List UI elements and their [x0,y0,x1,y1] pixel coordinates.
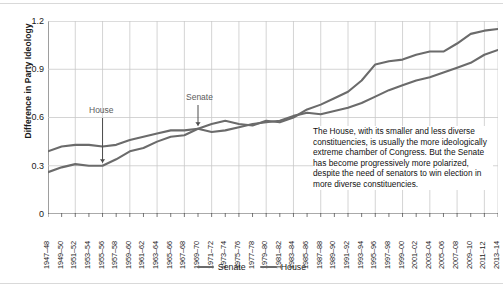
chart-note-text: The House, with its smaller and less div… [313,126,493,190]
senate-callout-label: Senate [186,92,213,102]
y-axis-tick-labels: 1.2 0.9 0.6 0.3 0 [18,0,44,288]
y-tick-label: 0 [18,209,44,219]
legend-item-house: House [260,262,306,272]
legend-label: House [281,262,306,272]
y-tick-label: 0.3 [18,161,44,171]
legend-line-icon [260,266,277,269]
chart-figure: Difference in Party Ideology 1.2 0.9 0.6… [0,0,503,288]
house-callout-label: House [89,105,114,115]
page-rule-bottom [0,283,503,284]
legend-line-icon [197,266,214,269]
page-rule-top [0,3,503,4]
legend-item-senate: Senate [197,262,246,272]
legend-label: Senate [218,262,246,272]
y-tick-label: 0.6 [18,112,44,122]
y-tick-label: 1.2 [18,16,44,26]
chart-legend: Senate House [0,262,503,272]
y-tick-label: 0.9 [18,64,44,74]
